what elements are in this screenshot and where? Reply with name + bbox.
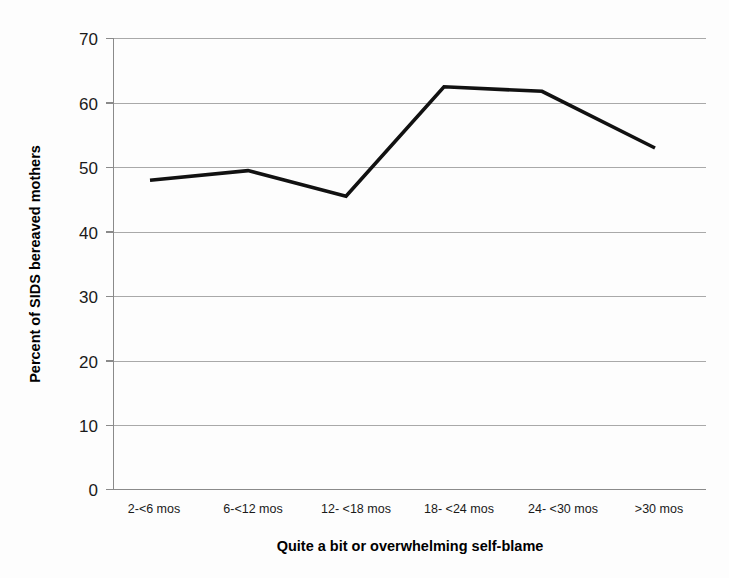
y-tick-label-70: 70	[79, 30, 98, 49]
x-tick-label-4: 24- <30 mos	[528, 502, 598, 516]
y-tick-label-40: 40	[79, 224, 98, 243]
x-tick-label-5: >30 mos	[635, 502, 683, 516]
y-tick-label-20: 20	[79, 353, 98, 372]
x-tick-label-0: 2-<6 mos	[128, 502, 180, 516]
y-tick-label-60: 60	[79, 95, 98, 114]
gridlines	[113, 39, 706, 426]
x-axis-title: Quite a bit or overwhelming self-blame	[277, 538, 544, 554]
chart-figure: 70 60 50 40 30 20 10 0 2-<6 mos 6-<12 mo…	[0, 0, 729, 578]
y-tick-label-50: 50	[79, 159, 98, 178]
y-tick-label-0: 0	[89, 481, 98, 500]
y-tick-marks	[106, 39, 113, 490]
x-tick-label-1: 6-<12 mos	[223, 502, 282, 516]
x-tick-label-3: 18- <24 mos	[424, 502, 494, 516]
y-tick-label-30: 30	[79, 288, 98, 307]
x-tick-label-2: 12- <18 mos	[321, 502, 391, 516]
y-tick-label-10: 10	[79, 417, 98, 436]
line-chart: 70 60 50 40 30 20 10 0 2-<6 mos 6-<12 mo…	[0, 0, 729, 578]
y-axis-title: Percent of SIDS bereaved mothers	[27, 145, 43, 383]
